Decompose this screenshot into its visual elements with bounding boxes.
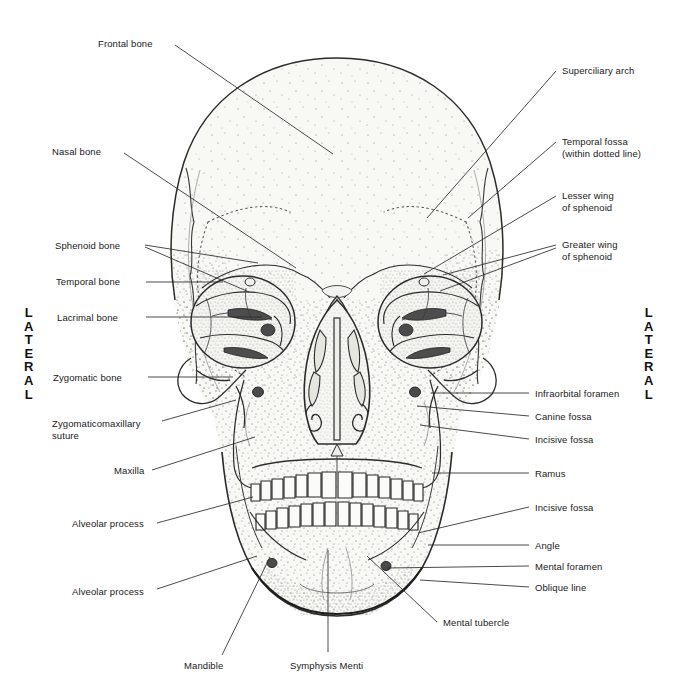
lateral-letter-6: L (22, 388, 36, 402)
lateral-letter-3: E (22, 347, 36, 361)
label-ramus: Ramus (535, 468, 566, 480)
label-alveolar-process-upper: Alveolar process (72, 518, 144, 530)
label-maxilla: Maxilla (114, 465, 144, 477)
label-alveolar-process-lower: Alveolar process (72, 586, 144, 598)
lateral-letter-5: A (642, 374, 656, 388)
label-mandible: Mandible (184, 660, 223, 672)
label-frontal-bone: Frontal bone (98, 38, 153, 50)
label-infraorbital-foramen: Infraorbital foramen (535, 388, 619, 400)
lateral-letter-2: T (22, 333, 36, 347)
lateral-letter-3: E (642, 347, 656, 361)
label-oblique-line: Oblique line (535, 582, 586, 594)
lateral-letter-5: A (22, 374, 36, 388)
label-temporal-bone: Temporal bone (56, 276, 120, 288)
lateral-letter-4: R (22, 360, 36, 374)
lateral-letter-1: A (22, 320, 36, 334)
lateral-label-right: LATERAL (642, 306, 656, 401)
label-zygomatic-bone: Zygomatic bone (53, 372, 122, 384)
lateral-letter-0: L (642, 306, 656, 320)
label-sphenoid-bone: Sphenoid bone (55, 240, 120, 252)
lateral-letter-6: L (642, 388, 656, 402)
label-incisive-fossa-lower: Incisive fossa (535, 502, 593, 514)
lateral-letter-0: L (22, 306, 36, 320)
label-lacrimal-bone: Lacrimal bone (57, 312, 118, 324)
label-temporal-fossa: Temporal fossa (within dotted line) (562, 136, 641, 159)
label-lesser-wing-of-sphenoid: Lesser wing of sphenoid (562, 190, 614, 213)
label-incisive-fossa-upper: Incisive fossa (535, 434, 593, 446)
lateral-letter-4: R (642, 360, 656, 374)
lateral-label-left: LATERAL (22, 306, 36, 401)
label-angle: Angle (535, 540, 560, 552)
label-canine-fossa: Canine fossa (535, 411, 592, 423)
lateral-letter-1: A (642, 320, 656, 334)
label-mental-tubercle: Mental tubercle (443, 617, 509, 629)
label-zygomaticomaxillary-suture: Zygomaticomaxillary suture (52, 418, 140, 441)
label-mental-foramen: Mental foramen (535, 561, 602, 573)
label-nasal-bone: Nasal bone (52, 146, 101, 158)
skull-diagram-figure: LATERAL LATERAL Frontal boneNasal boneSp… (0, 0, 675, 697)
mental-foramen-right (381, 561, 391, 570)
label-greater-wing-of-sphenoid: Greater wing of sphenoid (562, 239, 618, 262)
mental-foramen-left (267, 558, 277, 567)
lateral-letter-2: T (642, 333, 656, 347)
label-symphysis-menti: Symphysis Menti (290, 660, 363, 672)
label-superciliary-arch: Superciliary arch (562, 65, 634, 77)
